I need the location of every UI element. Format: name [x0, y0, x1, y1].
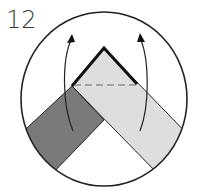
origami-diagram: [0, 0, 200, 196]
